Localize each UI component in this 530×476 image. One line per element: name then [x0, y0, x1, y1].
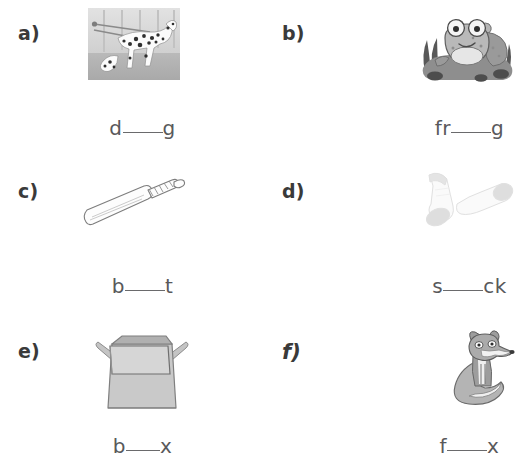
dalmatian-dog-photo [88, 8, 180, 80]
word-suffix-d: ck [483, 274, 507, 298]
word-prefix-c: b [112, 274, 125, 298]
word-blank-c: bt [0, 274, 275, 298]
word-suffix-f: x [487, 434, 499, 458]
word-prefix-e: b [113, 434, 126, 458]
item-marker-b: b) [282, 22, 305, 44]
word-blank-b: frg [265, 116, 530, 140]
open-cardboard-box [92, 330, 192, 416]
worksheet-item-d: d) sck [265, 158, 530, 316]
item-marker-d: d) [282, 180, 305, 202]
word-prefix-d: s [432, 274, 443, 298]
sitting-fox [445, 326, 519, 410]
word-prefix-f: f [440, 434, 448, 458]
word-blank-e: bx [0, 434, 275, 458]
answer-blank-e[interactable] [126, 450, 160, 451]
answer-blank-a[interactable] [123, 132, 163, 133]
word-suffix-c: t [165, 274, 173, 298]
frog-on-rock [415, 8, 519, 88]
item-marker-e: e) [18, 340, 40, 362]
word-prefix-b: fr [435, 116, 451, 140]
worksheet-item-a: a) [0, 0, 265, 158]
word-blank-d: sck [265, 274, 530, 298]
pair-of-socks [413, 170, 519, 240]
worksheet-item-b: b) [265, 0, 530, 158]
answer-blank-b[interactable] [451, 132, 491, 133]
word-suffix-e: x [160, 434, 172, 458]
answer-blank-c[interactable] [125, 290, 165, 291]
word-suffix-b: g [491, 116, 504, 140]
worksheet-item-f: f) fx [265, 318, 530, 476]
item-marker-f: f) [282, 340, 301, 364]
word-blank-a: dg [0, 116, 275, 140]
word-suffix-a: g [163, 116, 176, 140]
worksheet-page: a) [0, 0, 530, 476]
item-marker-c: c) [18, 180, 38, 202]
answer-blank-f[interactable] [447, 450, 487, 451]
answer-blank-d[interactable] [443, 290, 483, 291]
cricket-bat [78, 174, 190, 234]
word-prefix-a: d [109, 116, 122, 140]
worksheet-item-e: e) bx [0, 318, 265, 476]
item-marker-a: a) [18, 22, 40, 44]
worksheet-item-c: c) [0, 158, 265, 316]
word-blank-f: fx [265, 434, 530, 458]
